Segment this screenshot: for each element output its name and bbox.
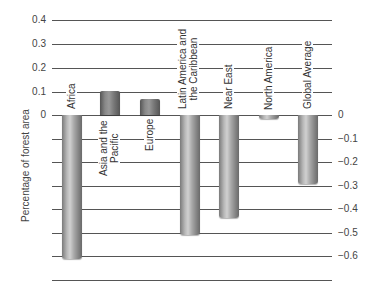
gridline (52, 256, 332, 257)
bar-europe (140, 99, 160, 115)
category-label-europe: Europe (144, 117, 155, 153)
left-tick: 0.2 (18, 62, 46, 73)
forest-area-change-chart: Percentage of forest area 0.4 0.3 0.2 0.… (0, 0, 376, 287)
bar-near-east (219, 115, 239, 218)
right-tick: −0.4 (338, 203, 358, 214)
left-tick: 0.3 (18, 38, 46, 49)
right-tick: −0.2 (338, 156, 358, 167)
bar-global-average (298, 115, 318, 184)
right-tick: −0.6 (338, 250, 358, 261)
right-tick: −0.5 (338, 227, 358, 238)
category-label-latin-america: Latin America and the Caribbean (177, 27, 199, 111)
right-tick: −0.3 (338, 180, 358, 191)
left-tick: 0.4 (18, 14, 46, 25)
gridline (52, 280, 332, 281)
gridline (52, 20, 332, 21)
left-tick: 0 (18, 109, 46, 120)
category-label-north-america: North America (263, 45, 274, 112)
category-label-global-average: Global Average (302, 39, 313, 111)
category-label-africa: Africa (66, 81, 77, 111)
left-tick: 0.1 (18, 86, 46, 97)
y-axis-label: Percentage of forest area (20, 101, 31, 231)
right-tick: −0.1 (338, 133, 358, 144)
category-label-asia-pacific: Asia and the Pacific (98, 118, 120, 178)
right-tick: 0 (338, 109, 344, 120)
bar-latin-america (180, 115, 200, 235)
bar-africa (62, 115, 82, 259)
category-label-near-east: Near East (223, 63, 234, 111)
bar-north-america (259, 115, 279, 119)
bar-asia-pacific (100, 91, 120, 115)
